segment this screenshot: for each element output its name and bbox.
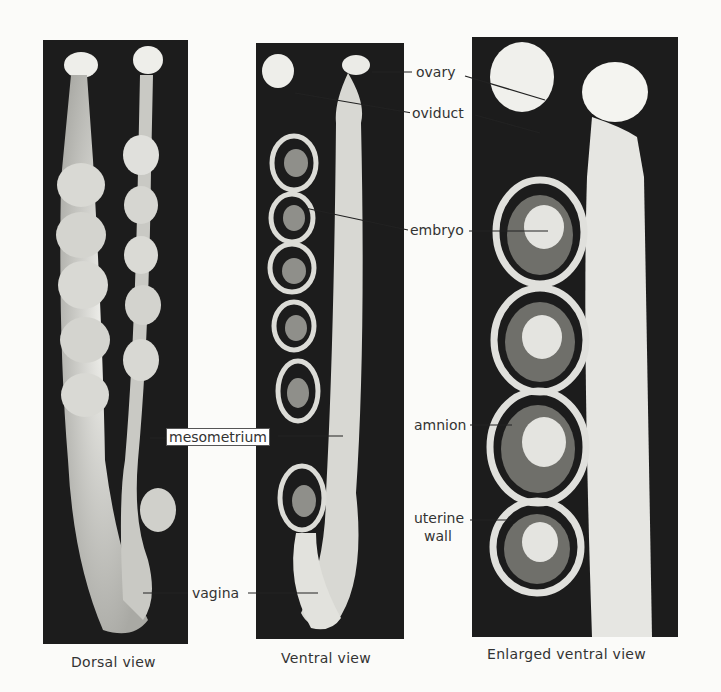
enlarged-uterus-illustration	[472, 37, 678, 637]
label-amnion: amnion	[412, 417, 468, 433]
caption-dorsal-view: Dorsal view	[71, 654, 156, 670]
label-mesometrium: mesometrium	[166, 428, 270, 446]
label-oviduct: oviduct	[410, 105, 466, 121]
caption-ventral-view: Ventral view	[281, 650, 371, 666]
enlarged-ventral-view-photo	[472, 37, 678, 637]
label-embryo: embryo	[408, 222, 466, 238]
caption-enlarged-ventral-view: Enlarged ventral view	[487, 646, 646, 662]
label-uterine-wall-line1: uterine	[412, 510, 466, 526]
label-uterine-wall-line2: wall	[422, 528, 454, 544]
ventral-uterus-illustration	[256, 43, 404, 639]
label-vagina: vagina	[190, 585, 241, 601]
dorsal-view-photo	[43, 40, 188, 644]
label-ovary: ovary	[414, 64, 457, 80]
ventral-view-photo	[256, 43, 404, 639]
anatomy-figure: ovary oviduct embryo mesometrium amnion …	[0, 0, 721, 692]
dorsal-uterus-illustration	[43, 40, 188, 644]
